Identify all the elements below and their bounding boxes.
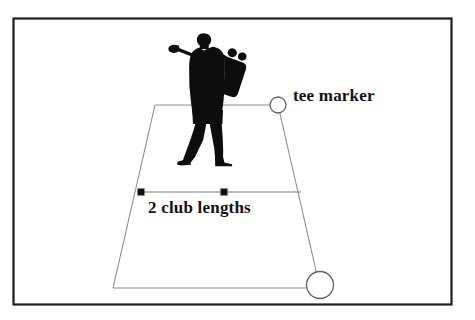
golf-teeing-ground-diagram: tee marker 2 club lengths xyxy=(0,0,475,320)
ball-circle-outline-icon xyxy=(307,272,334,299)
square-dot-icon-mid xyxy=(221,189,228,196)
tee-marker-circle-outline-icon xyxy=(270,97,286,113)
page-background xyxy=(0,0,475,320)
club-lengths-label: 2 club lengths xyxy=(148,198,251,218)
diagram-canvas xyxy=(0,0,475,320)
square-dot-icon-left xyxy=(138,189,145,196)
tee-marker-label: tee marker xyxy=(293,86,375,106)
